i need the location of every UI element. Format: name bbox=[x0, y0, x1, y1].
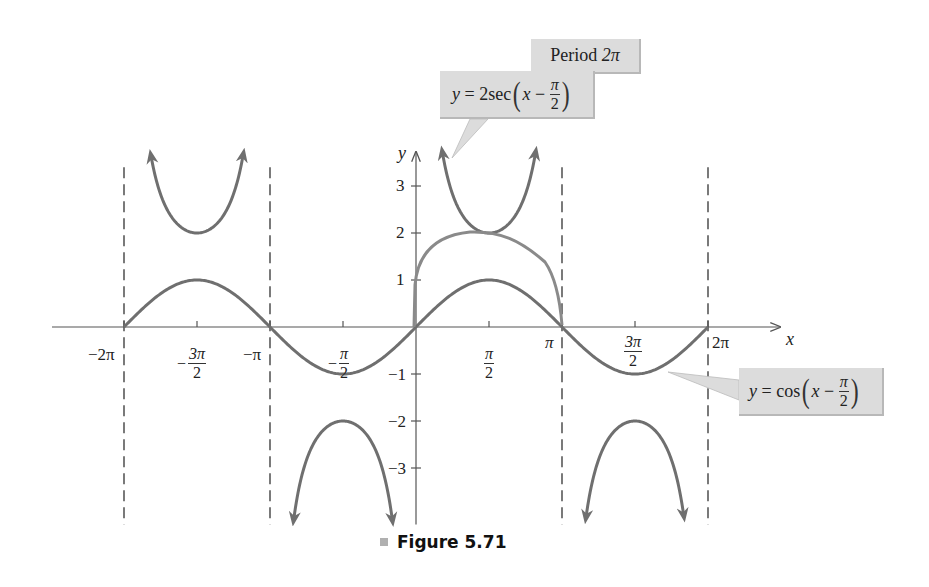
y-tick-minus-1: −1 bbox=[388, 366, 406, 383]
x-tick-minus-2pi: −2π bbox=[88, 346, 115, 363]
x-tick-minus-3pi-over-2: − 3π2 bbox=[177, 346, 206, 381]
y-axis-label: y bbox=[398, 143, 406, 164]
y-tick-3: 3 bbox=[396, 177, 405, 194]
y-tick-minus-2: −2 bbox=[388, 413, 406, 430]
caption-bullet-icon bbox=[380, 538, 388, 546]
secant-equation-callout: y = 2sec ( x − π2 ) bbox=[440, 71, 595, 119]
left-paren: ( bbox=[802, 374, 810, 408]
x-tick-minus-pi-over-2: − π2 bbox=[328, 346, 349, 381]
x-tick-minus-pi: −π bbox=[243, 346, 261, 363]
secant-branch bbox=[294, 421, 393, 520]
cosine-callout-pointer bbox=[668, 372, 739, 400]
x-tick-3pi-over-2: 3π2 bbox=[624, 334, 642, 369]
secant-branch bbox=[442, 153, 535, 233]
figure-caption: Figure 5.71 bbox=[380, 532, 507, 552]
y-tick-2: 2 bbox=[396, 224, 405, 241]
secant-callout-pointer bbox=[452, 119, 488, 158]
right-paren: ) bbox=[850, 374, 858, 408]
x-tick-2pi: 2π bbox=[712, 334, 729, 351]
cosine-equation-callout: y = cos ( x − π2 ) bbox=[739, 368, 884, 416]
x-tick-pi: π bbox=[545, 334, 554, 351]
y-tick-1: 1 bbox=[396, 271, 405, 288]
x-axis-label: x bbox=[786, 329, 794, 350]
axes bbox=[52, 152, 780, 524]
period-callout: Period 2π bbox=[531, 39, 641, 74]
right-paren: ) bbox=[561, 77, 569, 111]
y-tick-minus-3: −3 bbox=[388, 460, 406, 477]
secant-branch bbox=[586, 421, 684, 517]
secant-branch bbox=[151, 155, 243, 233]
left-paren: ( bbox=[513, 77, 521, 111]
x-tick-pi-over-2: π2 bbox=[484, 346, 494, 381]
